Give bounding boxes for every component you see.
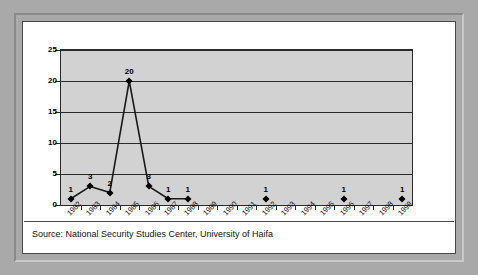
x-axis-tick: [198, 206, 199, 210]
x-axis-tick: [159, 206, 160, 210]
x-axis-tick: [178, 206, 179, 210]
data-point-value-label: 1: [69, 185, 73, 194]
data-point-value-label: 1: [342, 185, 346, 194]
x-axis-tick: [120, 206, 121, 210]
chart-figure-frame: 0510152025198219831984198519861987198819…: [14, 13, 464, 262]
gridline: [61, 143, 412, 144]
y-axis-label: 25: [33, 46, 57, 54]
y-axis-label: 5: [33, 170, 57, 178]
data-point-value-label: 1: [166, 185, 170, 194]
caption-divider: [24, 221, 454, 222]
line-chart: 0510152025198219831984198519861987198819…: [23, 22, 455, 218]
y-axis-label: 20: [33, 77, 57, 85]
y-axis-label: 10: [33, 139, 57, 147]
gridline: [61, 81, 412, 82]
data-point-value-label: 1: [264, 185, 268, 194]
y-axis-label: 15: [33, 108, 57, 116]
x-axis-tick: [393, 206, 394, 210]
x-axis-tick: [237, 206, 238, 210]
gridline: [61, 112, 412, 113]
chart-panel: 0510152025198219831984198519861987198819…: [22, 21, 456, 254]
data-point-value-label: 20: [125, 67, 134, 76]
x-axis-tick: [334, 206, 335, 210]
source-caption: Source: National Security Studies Center…: [32, 229, 273, 239]
x-axis-tick: [217, 206, 218, 210]
x-axis-tick: [100, 206, 101, 210]
x-axis-tick: [256, 206, 257, 210]
y-axis-label: 0: [33, 201, 57, 209]
x-axis-tick: [81, 206, 82, 210]
data-point-value-label: 1: [186, 185, 190, 194]
data-point-value-label: 3: [88, 172, 92, 181]
x-axis-tick: [276, 206, 277, 210]
data-point-value-label: 1: [400, 185, 404, 194]
x-axis-tick: [354, 206, 355, 210]
x-axis-tick: [315, 206, 316, 210]
gridline: [61, 174, 412, 175]
plot-area: [60, 49, 413, 206]
x-axis-tick: [295, 206, 296, 210]
gridline: [61, 50, 412, 51]
data-point-value-label: 3: [147, 172, 151, 181]
data-point-value-label: 2: [108, 179, 112, 188]
x-axis-tick: [139, 206, 140, 210]
x-axis-tick: [373, 206, 374, 210]
